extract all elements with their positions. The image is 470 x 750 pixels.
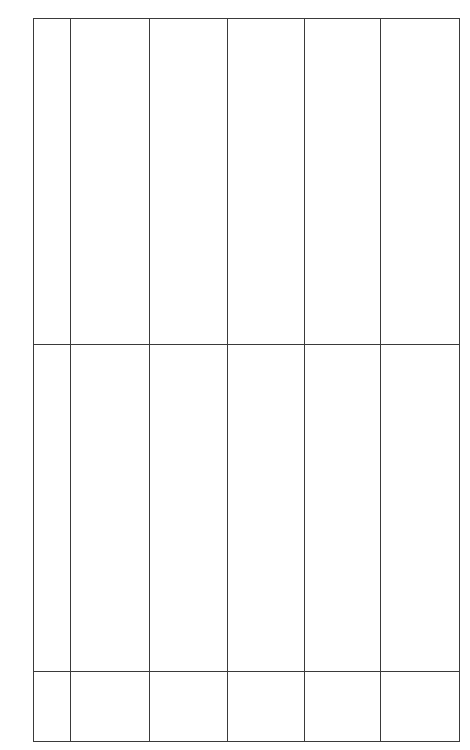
table-cell [305,345,381,672]
table-cell [150,345,228,672]
table-row [34,345,460,672]
table-cell [71,19,150,345]
table-row [34,19,460,345]
table-cell [228,19,305,345]
table-cell [228,345,305,672]
table-cell [381,345,460,672]
empty-table [33,18,460,742]
table-cell [381,672,460,742]
table-cell [34,672,71,742]
table-cell [228,672,305,742]
table-cell [71,345,150,672]
table-cell [305,672,381,742]
table-cell [150,19,228,345]
table-row [34,672,460,742]
table-cell [305,19,381,345]
table-cell [150,672,228,742]
table-cell [34,345,71,672]
table-cell [381,19,460,345]
table-cell [34,19,71,345]
table-cell [71,672,150,742]
